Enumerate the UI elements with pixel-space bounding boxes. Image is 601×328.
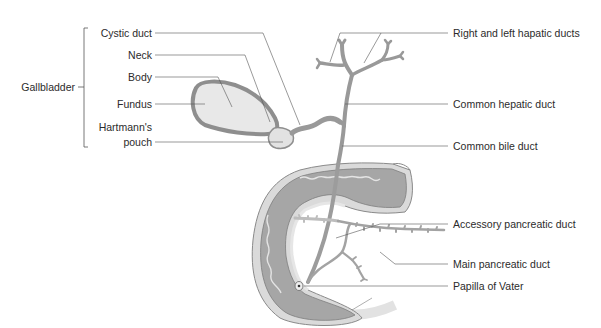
- papilla-of-vater-shape: [295, 282, 303, 291]
- label-hartmanns-line2: pouch: [80, 136, 152, 148]
- label-common-hepatic-duct: Common hepatic duct: [453, 98, 555, 110]
- leader-lines-right: [304, 33, 448, 286]
- label-cystic-duct: Cystic duct: [80, 27, 152, 39]
- duodenum: [252, 163, 412, 326]
- gallbladder-group-label: Gallbladder: [20, 81, 75, 93]
- label-accessory-pancreatic-duct: Accessory pancreatic duct: [453, 218, 576, 230]
- gallbladder-shape: [193, 82, 294, 149]
- pancreatic-ducts: [295, 215, 444, 282]
- label-right-left-hepatic-ducts: Right and left hapatic ducts: [453, 27, 580, 39]
- biliary-anatomy-diagram: Gallbladder Cystic duct Neck Body Fundus…: [0, 0, 601, 328]
- label-body: Body: [80, 71, 152, 83]
- label-common-bile-duct: Common bile duct: [453, 140, 538, 152]
- label-hartmanns-line1: Hartmann's: [80, 121, 152, 133]
- biliary-ducts: [292, 40, 403, 282]
- label-fundus: Fundus: [80, 98, 152, 110]
- label-neck: Neck: [80, 49, 152, 61]
- label-main-pancreatic-duct: Main pancreatic duct: [453, 258, 550, 270]
- label-papilla-of-vater: Papilla of Vater: [453, 280, 523, 292]
